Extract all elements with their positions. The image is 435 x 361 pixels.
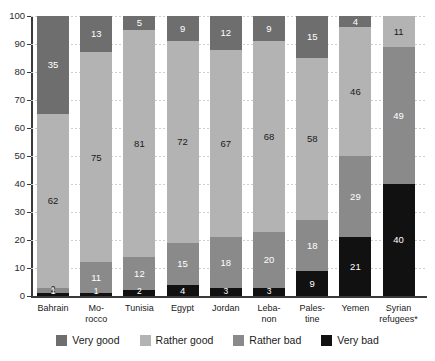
x-axis-label: Syrianrefugees* [369,303,429,324]
bar-segment-value: 4 [180,286,185,296]
bar-column[interactable]: 4462921 [339,16,371,296]
bar-segment-value: 4 [353,17,358,27]
x-axis-line [31,296,427,298]
bar-column[interactable]: 356221 [37,16,69,296]
bar-segment-value: 72 [177,137,188,147]
bar-segment[interactable]: 1 [80,293,112,296]
bar-column[interactable]: 968203 [253,16,285,296]
bar-segment[interactable]: 12 [210,16,242,50]
bar-column[interactable]: 1558189 [296,16,328,296]
bar-segment[interactable]: 21 [339,237,371,296]
bar-column[interactable]: 581122 [123,16,155,296]
bar-segment-value: 29 [350,192,361,202]
bar-segment-value: 75 [91,153,102,163]
bar-segment-value: 21 [350,262,361,272]
bar-segment-value: 15 [177,259,188,269]
bar-segment[interactable]: 18 [210,237,242,287]
bar-segment-value: 62 [48,196,59,206]
bar-segment-value: 9 [310,279,315,289]
legend-item[interactable]: Very bad [321,334,378,346]
bar-segment-value: 49 [393,111,404,121]
bar-segment[interactable]: 29 [339,156,371,237]
bar-segment[interactable]: 75 [80,52,112,262]
bar-segment-value: 40 [393,235,404,245]
bar-segment-value: 15 [307,32,318,42]
bar-segment-value: 58 [307,134,318,144]
legend-color-swatch [321,335,332,346]
legend-item[interactable]: Rather bad [233,334,301,346]
bar-segment[interactable]: 58 [296,58,328,220]
bar-segment[interactable]: 81 [123,30,155,257]
bar-segment-value: 67 [221,139,232,149]
bar-segment-value: 9 [180,24,185,34]
bar-segment[interactable]: 18 [296,220,328,270]
y-axis-tick-label: 100 [0,10,25,21]
legend-color-swatch [140,335,151,346]
x-axis-label-line: rocco [66,314,126,325]
bar-segment-value: 81 [134,139,145,149]
bar-segment[interactable]: 13 [80,16,112,52]
bar-segment-value: 35 [48,60,59,70]
legend-item[interactable]: Very good [56,334,119,346]
bar-segment[interactable]: 5 [123,16,155,30]
bar-segment-value: 13 [91,29,102,39]
bar-segment[interactable]: 62 [37,114,69,288]
bar-segment-value: 12 [134,269,145,279]
y-axis-tick-label: 80 [0,66,25,77]
y-axis-tick-label: 90 [0,38,25,49]
plot-area: 3562211375111581122972154126718396820315… [31,16,427,296]
x-axis-label-line: tine [282,314,342,325]
bar-column[interactable]: 114940 [383,16,415,296]
bar-segment-value: 11 [394,27,404,37]
bar-segment[interactable]: 49 [383,47,415,184]
bar-segment-value: 20 [264,255,275,265]
legend-item[interactable]: Rather good [140,334,214,346]
stacked-bar-chart: 0102030405060708090100 35622113751115811… [0,0,435,361]
bar-segment-value: 9 [266,24,271,34]
bar-segment-value: 68 [264,132,275,142]
y-axis-tick-label: 20 [0,234,25,245]
bar-segment[interactable]: 68 [253,41,285,231]
y-axis-tick-label: 50 [0,150,25,161]
bar-segment-value: 3 [223,287,228,296]
bar-segment-value: 46 [350,87,361,97]
bar-segment-value: 18 [221,258,232,268]
y-axis-tick-label: 10 [0,262,25,273]
bar-segment[interactable]: 46 [339,27,371,156]
y-axis-tick-label: 60 [0,122,25,133]
x-axis-label-line: refugees* [369,314,429,325]
bar-segment-value: 11 [91,273,101,283]
bar-segment[interactable]: 11 [383,16,415,47]
bar-segment[interactable]: 1 [37,293,69,296]
legend-label: Very bad [337,334,378,346]
bar-segment[interactable]: 72 [167,41,199,243]
bar-segment[interactable]: 12 [123,257,155,291]
bar-segment[interactable]: 4 [339,16,371,27]
bar-column[interactable]: 1375111 [80,16,112,296]
legend-color-swatch [56,335,67,346]
y-axis-tick-label: 40 [0,178,25,189]
bar-column[interactable]: 1267183 [210,16,242,296]
bar-segment[interactable]: 20 [253,232,285,288]
chart-legend: Very goodRather goodRather badVery bad [0,334,435,346]
x-axis-label-line: Syrian [369,303,429,314]
bar-column[interactable]: 972154 [167,16,199,296]
bar-segment[interactable]: 9 [167,16,199,41]
bar-segment[interactable]: 4 [167,285,199,296]
bar-segment[interactable]: 11 [80,262,112,293]
y-axis-tick-label: 70 [0,94,25,105]
bar-segment[interactable]: 15 [296,16,328,58]
bar-segment[interactable]: 3 [210,288,242,296]
bar-segment[interactable]: 2 [123,290,155,296]
bar-segment[interactable]: 40 [383,184,415,296]
bar-segment[interactable]: 35 [37,16,69,114]
legend-color-swatch [233,335,244,346]
legend-label: Rather good [156,334,214,346]
bar-segment[interactable]: 9 [253,16,285,41]
bar-segment[interactable]: 15 [167,243,199,285]
bar-segment-value: 5 [137,18,142,28]
bar-segment[interactable]: 3 [253,288,285,296]
bar-segment[interactable]: 67 [210,50,242,238]
bar-segment[interactable]: 9 [296,271,328,296]
legend-label: Very good [72,334,119,346]
